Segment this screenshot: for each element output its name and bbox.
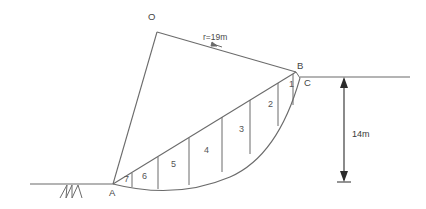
point-label-b: B [297,61,303,71]
slice-label-7: 7 [124,175,129,184]
point-label-a: A [109,188,115,198]
ground-hatch-icon [60,185,82,198]
slice-label-1: 1 [289,80,294,89]
slice-divider-group [132,74,293,189]
slice-label-4: 4 [204,146,209,155]
radius-arrow-icon [211,42,222,47]
slice-label-3: 3 [239,125,244,134]
radius-label: r=19m [203,33,227,42]
slope-stability-diagram: O A B C r=19m 14m 1 2 3 4 5 6 7 [0,0,426,209]
crest-segment-bc [296,72,300,78]
slice-label-2: 2 [268,100,273,109]
height-label: 14m [352,130,370,139]
point-label-o: O [148,12,155,22]
slice-label-5: 5 [171,160,176,169]
slice-label-6: 6 [142,172,147,181]
point-label-c: C [304,78,311,88]
height-dimension-arrow [337,77,351,182]
